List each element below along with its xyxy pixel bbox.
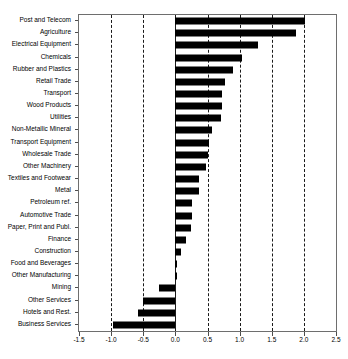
bar bbox=[175, 151, 207, 158]
x-tick-0.5 bbox=[208, 332, 209, 336]
bar bbox=[138, 309, 175, 316]
y-axis-label: Food and Beverages bbox=[11, 260, 71, 267]
y-axis-label: Hotels and Rest. bbox=[23, 309, 71, 316]
y-axis-label: Paper, Print and Publ. bbox=[8, 223, 71, 230]
bar bbox=[159, 285, 175, 292]
y-axis-label: Agriculture bbox=[40, 29, 71, 36]
bar bbox=[175, 103, 221, 110]
bar bbox=[175, 236, 186, 243]
y-axis-label: Other Machinery bbox=[23, 163, 71, 170]
x-tick-label--0.5: -0.5 bbox=[138, 336, 149, 343]
bar bbox=[143, 297, 176, 304]
bar bbox=[175, 54, 242, 61]
bar bbox=[175, 127, 212, 134]
y-axis-label: Mining bbox=[52, 284, 71, 291]
y-axis-label: Wood Products bbox=[27, 102, 71, 109]
x-tick-label--1.0: -1.0 bbox=[106, 336, 117, 343]
y-axis-label: Metal bbox=[55, 187, 71, 194]
x-tick-label-1.5: 1.5 bbox=[267, 336, 276, 343]
bar bbox=[175, 261, 177, 268]
y-axis-label: Transport bbox=[43, 90, 71, 97]
x-tick-label-2.0: 2.0 bbox=[299, 336, 308, 343]
x-tick--0.5 bbox=[143, 332, 144, 336]
y-axis-label: Textiles and Footwear bbox=[8, 175, 71, 182]
bar bbox=[175, 66, 232, 73]
y-axis-label: Retail Trade bbox=[36, 78, 71, 85]
x-tick-0.0 bbox=[175, 332, 176, 336]
x-tick-2.5 bbox=[336, 332, 337, 336]
y-axis-label: Petroleum ref. bbox=[30, 199, 71, 206]
y-axis-labels: Post and TelecomAgricultureElectrical Eq… bbox=[0, 14, 76, 332]
y-axis-label: Automotive Trade bbox=[20, 211, 71, 218]
bar bbox=[175, 18, 304, 25]
bar bbox=[175, 163, 206, 170]
bar bbox=[175, 78, 224, 85]
y-axis-label: Other Manufacturing bbox=[12, 272, 71, 279]
x-tick-2.0 bbox=[304, 332, 305, 336]
x-tick-label--1.5: -1.5 bbox=[73, 336, 84, 343]
x-tick-1.0 bbox=[240, 332, 241, 336]
y-axis-label: Transport Equipment bbox=[11, 138, 71, 145]
y-axis-label: Post and Telecom bbox=[19, 17, 71, 24]
x-tick--1.0 bbox=[111, 332, 112, 336]
x-tick-label-0.5: 0.5 bbox=[203, 336, 212, 343]
bar bbox=[175, 249, 181, 256]
bar bbox=[175, 200, 192, 207]
bar bbox=[175, 188, 199, 195]
bar bbox=[175, 91, 221, 98]
x-tick-label-1.0: 1.0 bbox=[235, 336, 244, 343]
bar bbox=[175, 273, 177, 280]
x-tick-label-0.0: 0.0 bbox=[171, 336, 180, 343]
x-tick--1.5 bbox=[79, 332, 80, 336]
y-axis-label: Finance bbox=[48, 236, 71, 243]
x-tick-1.5 bbox=[272, 332, 273, 336]
bar bbox=[175, 212, 192, 219]
bar-series bbox=[79, 15, 336, 331]
plot-area bbox=[78, 14, 337, 332]
y-axis-label: Utilities bbox=[50, 114, 71, 121]
horizontal-bar-chart: Post and TelecomAgricultureElectrical Eq… bbox=[0, 0, 348, 359]
x-axis-labels: -1.5-1.0-0.50.00.51.01.52.02.5 bbox=[0, 336, 348, 352]
bar bbox=[175, 115, 221, 122]
bar bbox=[113, 321, 175, 328]
y-axis-label: Electrical Equipment bbox=[12, 41, 71, 48]
y-axis-label: Chemicals bbox=[41, 53, 71, 60]
y-axis-label: Non-Metallic Mineral bbox=[12, 126, 71, 133]
bar bbox=[175, 42, 258, 49]
bar bbox=[175, 139, 209, 146]
y-axis-label: Wholesale Trade bbox=[22, 151, 71, 158]
y-axis-label: Construction bbox=[35, 248, 72, 255]
bar bbox=[175, 224, 190, 231]
y-axis-label: Other Services bbox=[28, 296, 71, 303]
bar bbox=[175, 30, 296, 37]
y-axis-label: Business Services bbox=[18, 321, 71, 328]
bar bbox=[175, 176, 199, 183]
y-axis-label: Rubber and Plastics bbox=[13, 65, 71, 72]
x-tick-label-2.5: 2.5 bbox=[331, 336, 340, 343]
